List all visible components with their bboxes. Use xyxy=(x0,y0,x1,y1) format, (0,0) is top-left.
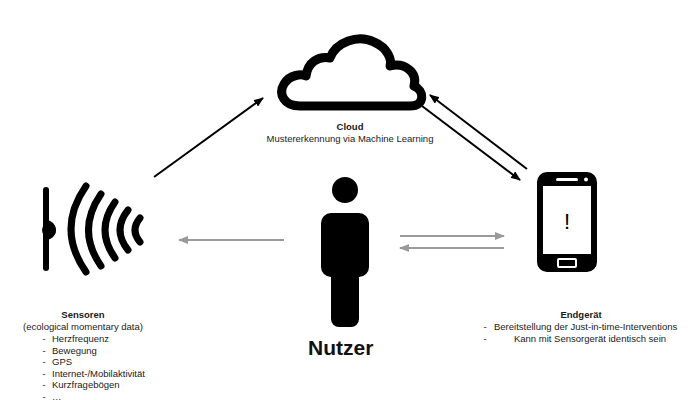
bullet-dash: - xyxy=(36,345,52,357)
bullet-dash: - xyxy=(36,368,52,380)
sensors-item-text: … xyxy=(52,391,62,400)
sensors-item-text: Herzfrequenz xyxy=(52,333,109,344)
sensors-list-item: -Internet-/Mobilaktivität xyxy=(36,368,148,380)
sensor-waves-icon xyxy=(42,186,140,272)
user-label: Nutzer xyxy=(308,336,373,360)
bullet-dash: - xyxy=(36,356,52,368)
sensors-subtitle: (ecological momentary data) xyxy=(18,321,148,333)
bullet-dash: - xyxy=(476,321,494,333)
sensors-item-text: Kurzfragebögen xyxy=(52,379,120,390)
sensors-list-item: -Bewegung xyxy=(36,345,148,357)
device-list-item: - Kann mit Sensorgerät identisch sein xyxy=(476,333,686,345)
device-title: Endgerät xyxy=(476,309,686,321)
cloud-label: Cloud Mustererkennung via Machine Learni… xyxy=(240,121,460,145)
bullet-dash: - xyxy=(36,379,52,391)
smartphone-icon: ! xyxy=(537,172,597,272)
sensors-list-item: -Kurzfragebögen xyxy=(36,379,148,391)
bullet-dash: - xyxy=(36,391,52,400)
cloud-subtitle: Mustererkennung via Machine Learning xyxy=(240,133,460,145)
sensors-list-item: -… xyxy=(36,391,148,400)
sensors-list: -Herzfrequenz -Bewegung -GPS -Internet-/… xyxy=(36,333,148,400)
device-label: Endgerät - Bereitstellung der Just-in-ti… xyxy=(476,309,686,345)
device-list-item: - Bereitstellung der Just-in-time-Interv… xyxy=(476,321,686,333)
cloud-title: Cloud xyxy=(240,121,460,133)
device-item-text: Kann mit Sensorgerät identisch sein xyxy=(494,333,686,345)
bullet-dash: - xyxy=(36,333,52,345)
sensors-item-text: GPS xyxy=(52,356,72,367)
sensors-title: Sensoren xyxy=(18,309,148,321)
cloud-icon xyxy=(282,39,422,106)
sensors-item-text: Internet-/Mobilaktivität xyxy=(52,368,145,379)
bullet-dash: - xyxy=(476,333,494,345)
sensors-list-item: -GPS xyxy=(36,356,148,368)
sensors-label: Sensoren (ecological momentary data) -He… xyxy=(18,309,148,400)
person-icon xyxy=(321,177,369,327)
sensors-item-text: Bewegung xyxy=(52,345,97,356)
device-item-text: Bereitstellung der Just-in-time-Interven… xyxy=(494,321,677,333)
screen-exclamation: ! xyxy=(564,209,570,234)
sensors-list-item: -Herzfrequenz xyxy=(36,333,148,345)
